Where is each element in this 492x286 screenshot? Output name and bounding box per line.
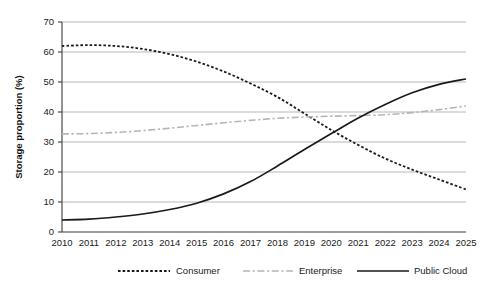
series-line-enterprise bbox=[62, 106, 466, 134]
y-axis-tick-label: 20 bbox=[43, 166, 54, 177]
x-axis-tick-label: 2013 bbox=[132, 237, 153, 248]
x-axis-tick-label: 2011 bbox=[79, 237, 99, 248]
chart-canvas: 010203040506070 201020112012201320142015… bbox=[0, 0, 492, 286]
x-axis-tick-label: 2010 bbox=[51, 237, 72, 248]
y-axis-title: Storage proportion (%) bbox=[13, 75, 24, 178]
x-axis-tick-label: 2012 bbox=[105, 237, 126, 248]
axes-group bbox=[58, 22, 466, 232]
legend-label: Enterprise bbox=[299, 265, 342, 276]
x-axis-tick-label: 2021 bbox=[348, 237, 369, 248]
x-axis-tick-label: 2023 bbox=[402, 237, 423, 248]
x-axis-tick-label: 2019 bbox=[294, 237, 315, 248]
legend-item-consumer[interactable]: Consumer bbox=[118, 265, 220, 276]
x-axis-tick-label: 2018 bbox=[267, 237, 288, 248]
y-axis-tick-label: 60 bbox=[43, 46, 54, 57]
x-axis-tick-label: 2020 bbox=[321, 237, 342, 248]
x-axis-tick-label: 2022 bbox=[375, 237, 396, 248]
x-axis-tick-label: 2014 bbox=[159, 237, 180, 248]
legend-label: Public Cloud bbox=[414, 265, 467, 276]
chart-legend: ConsumerEnterprisePublic Cloud bbox=[118, 265, 467, 276]
series-line-public-cloud bbox=[62, 79, 466, 220]
y-axis-tick-label: 40 bbox=[43, 106, 54, 117]
legend-item-enterprise[interactable]: Enterprise bbox=[243, 265, 342, 276]
x-axis-tick-labels: 2010201120122013201420152016201720182019… bbox=[51, 237, 476, 248]
x-axis-tick-label: 2015 bbox=[186, 237, 207, 248]
y-axis-tick-label: 50 bbox=[43, 76, 54, 87]
x-axis-tick-label: 2017 bbox=[240, 237, 261, 248]
x-axis-tick-label: 2016 bbox=[213, 237, 234, 248]
y-axis-tick-label: 0 bbox=[49, 226, 54, 237]
data-series-group bbox=[62, 45, 466, 220]
y-axis-tick-label: 30 bbox=[43, 136, 54, 147]
y-axis-tick-labels: 010203040506070 bbox=[43, 16, 54, 237]
line-chart: 010203040506070 201020112012201320142015… bbox=[0, 0, 492, 286]
y-axis-tick-label: 10 bbox=[43, 196, 54, 207]
x-axis-tick-label: 2025 bbox=[455, 237, 476, 248]
legend-label: Consumer bbox=[176, 265, 220, 276]
x-axis-tick-label: 2024 bbox=[428, 237, 449, 248]
series-line-consumer bbox=[62, 45, 466, 189]
y-axis-tick-label: 70 bbox=[43, 16, 54, 27]
legend-item-public-cloud[interactable]: Public Cloud bbox=[357, 265, 467, 276]
